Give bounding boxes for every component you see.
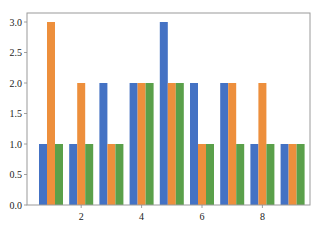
bar-series-3-x5 (176, 83, 184, 205)
bar-series-1-x7 (220, 83, 228, 205)
bar-series-1-x4 (130, 83, 138, 205)
y-tick-label: 2.0 (10, 78, 23, 89)
bar-series-2-x9 (289, 144, 297, 205)
bar-series-3-x7 (236, 144, 244, 205)
x-tick-label: 4 (139, 211, 144, 222)
grouped-bar-chart: 0.00.51.01.52.02.53.0 2468 (0, 0, 326, 236)
bar-series-2-x3 (107, 144, 115, 205)
x-tick-label: 2 (79, 211, 84, 222)
bar-series-2-x4 (138, 83, 146, 205)
bar-series-1-x1 (39, 144, 47, 205)
bar-series-3-x2 (85, 144, 93, 205)
bar-series-1-x9 (281, 144, 289, 205)
bar-series-2-x5 (168, 83, 176, 205)
bar-series-1-x2 (69, 144, 77, 205)
bar-series-2-x8 (258, 83, 266, 205)
x-tick-label: 6 (200, 211, 205, 222)
bar-series-2-x2 (77, 83, 85, 205)
y-tick-label: 0.5 (10, 169, 23, 180)
bar-series-1-x6 (190, 83, 198, 205)
y-tick-label: 1.0 (10, 139, 23, 150)
x-tick-label: 8 (260, 211, 265, 222)
bar-series-3-x6 (206, 144, 214, 205)
y-tick-label: 0.0 (10, 200, 23, 211)
bar-series-3-x4 (146, 83, 154, 205)
bars-layer (39, 22, 305, 205)
bar-series-1-x3 (99, 83, 107, 205)
bar-series-1-x5 (160, 22, 168, 205)
bar-series-3-x9 (297, 144, 305, 205)
x-axis: 2468 (79, 205, 265, 222)
bar-series-2-x6 (198, 144, 206, 205)
y-tick-label: 1.5 (10, 108, 23, 119)
bar-series-1-x8 (250, 144, 258, 205)
y-tick-label: 2.5 (10, 47, 23, 58)
bar-series-2-x1 (47, 22, 55, 205)
bar-series-3-x8 (266, 144, 274, 205)
bar-series-2-x7 (228, 83, 236, 205)
bar-series-3-x3 (115, 144, 123, 205)
y-tick-label: 3.0 (10, 17, 23, 28)
y-axis: 0.00.51.01.52.02.53.0 (10, 17, 28, 211)
bar-series-3-x1 (55, 144, 63, 205)
